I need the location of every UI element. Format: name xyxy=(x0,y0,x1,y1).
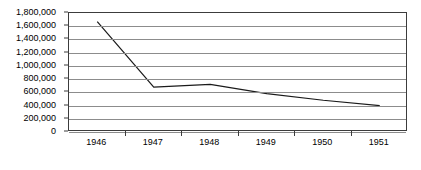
gridline xyxy=(69,53,406,54)
y-tick-label: 1,400,000 xyxy=(16,34,56,43)
y-tick-label: 0 xyxy=(51,127,56,136)
x-tick-mark xyxy=(294,131,295,136)
y-tick-label: 600,000 xyxy=(23,87,56,96)
gridline xyxy=(69,106,406,107)
gridline xyxy=(69,26,406,27)
y-tick-label: 800,000 xyxy=(23,74,56,83)
x-tick-label: 1949 xyxy=(256,137,276,148)
x-tick-label: 1946 xyxy=(86,137,106,148)
x-tick-mark xyxy=(238,131,239,136)
y-tick-label: 1,600,000 xyxy=(16,21,56,30)
y-tick-label: 1,000,000 xyxy=(16,60,56,69)
x-tick-label: 1948 xyxy=(199,137,219,148)
x-axis: 194619471948194919501951 xyxy=(68,137,407,153)
line-chart: 1,800,0001,600,0001,400,0001,200,0001,00… xyxy=(0,0,421,170)
x-axis-ticks xyxy=(68,131,407,136)
x-tick-label: 1947 xyxy=(143,137,163,148)
gridline xyxy=(69,66,406,67)
x-tick-label: 1951 xyxy=(369,137,389,148)
series-layer xyxy=(69,13,408,132)
y-tick-label: 1,200,000 xyxy=(16,47,56,56)
y-tick-label: 200,000 xyxy=(23,113,56,122)
gridline xyxy=(69,79,406,80)
x-tick-mark xyxy=(125,131,126,136)
x-tick-mark xyxy=(181,131,182,136)
x-tick-mark xyxy=(351,131,352,136)
x-tick-label: 1950 xyxy=(312,137,332,148)
y-tick-label: 400,000 xyxy=(23,100,56,109)
plot-area xyxy=(68,12,407,131)
y-axis: 1,800,0001,600,0001,400,0001,200,0001,00… xyxy=(0,0,64,170)
gridline xyxy=(69,39,406,40)
y-tick-label: 1,800,000 xyxy=(16,8,56,17)
gridline xyxy=(69,92,406,93)
gridline xyxy=(69,119,406,120)
